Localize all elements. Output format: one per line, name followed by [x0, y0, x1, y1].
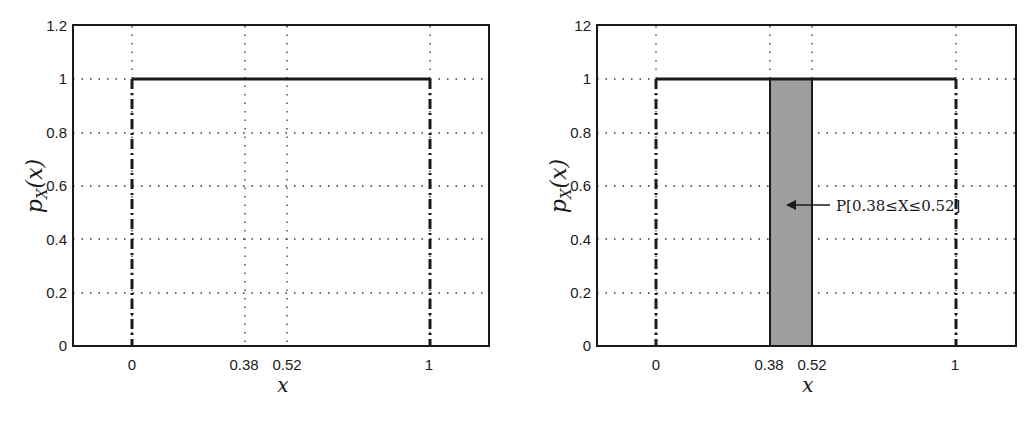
svg-text:pX(x): pX(x)	[22, 159, 51, 213]
right-plot: P[0.38≤X≤0.52] 0 0.2 0.4 0.6 0.8 1 12 0 …	[546, 17, 1016, 397]
left-x-label: x	[277, 373, 288, 397]
ytick: 0.2	[46, 284, 67, 301]
ytick: 0.4	[570, 231, 591, 248]
right-y-ticks: 0 0.2 0.4 0.6 0.8 1 12	[570, 17, 591, 354]
ytick: 12	[574, 17, 591, 34]
ytick: 0.8	[46, 124, 67, 141]
ytick: 0	[59, 337, 67, 354]
left-pdf-line	[132, 79, 430, 346]
ytick: 0.4	[46, 231, 67, 248]
left-x-ticks: 0 0.38 0.52 1	[128, 356, 433, 373]
ytick: 0	[583, 337, 591, 354]
svg-text:pX(x): pX(x)	[546, 159, 575, 213]
ytick: 1	[583, 70, 591, 87]
ytick: 1	[59, 70, 67, 87]
left-plot: 0 0.2 0.4 0.6 0.8 1 1.2 0 0.38 0.52 1 x …	[22, 17, 489, 397]
xtick: 0.38	[229, 356, 258, 373]
probability-shaded-region	[770, 79, 812, 346]
left-grid	[73, 26, 489, 345]
xtick: 0	[652, 356, 660, 373]
xtick: 0.38	[754, 356, 783, 373]
left-y-ticks: 0 0.2 0.4 0.6 0.8 1 1.2	[46, 17, 67, 354]
left-axes-box	[73, 25, 489, 346]
xtick: 0.52	[797, 356, 826, 373]
xtick: 1	[425, 356, 433, 373]
right-x-label: x	[802, 373, 813, 397]
right-y-label: pX(x)	[546, 159, 575, 213]
annotation-label: P[0.38≤X≤0.52]	[836, 197, 960, 215]
ytick: 1.2	[46, 17, 67, 34]
xtick: 0.52	[272, 356, 301, 373]
xtick: 1	[951, 356, 959, 373]
right-x-ticks: 0 0.38 0.52 1	[652, 356, 959, 373]
ytick: 0.8	[570, 124, 591, 141]
xtick: 0	[128, 356, 136, 373]
ytick: 0.2	[570, 284, 591, 301]
left-y-label: pX(x)	[22, 159, 51, 213]
figure: 0 0.2 0.4 0.6 0.8 1 1.2 0 0.38 0.52 1 x …	[0, 0, 1025, 434]
